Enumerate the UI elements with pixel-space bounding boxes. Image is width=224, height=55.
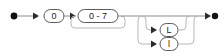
arrow-to-end-icon — [205, 12, 211, 19]
arrow-to-zero-prefix-icon — [33, 12, 39, 19]
node-suffix-lower-l-label: l — [168, 39, 170, 49]
node-suffix-upper-l-label: L — [166, 25, 171, 35]
node-octal-digit-label: 0 - 7 — [89, 11, 107, 21]
node-suffix-upper-l: L — [160, 24, 178, 37]
arrow-to-suffix-lower-l-icon — [151, 41, 157, 48]
node-zero-prefix: 0 — [44, 10, 64, 23]
node-octal-digit: 0 - 7 — [78, 10, 118, 23]
rail-merge-from-suffix-upper-l — [178, 16, 190, 30]
railroad-diagram: 0 0 - 7 L l — [0, 0, 224, 55]
start-marker-dot — [11, 13, 18, 20]
arrow-to-suffix-upper-l-icon — [151, 27, 157, 34]
syntax-diagram-canvas: 0 0 - 7 L l — [0, 0, 224, 55]
node-suffix-lower-l: l — [160, 38, 178, 51]
end-marker-dot — [212, 13, 218, 19]
node-zero-prefix-label: 0 — [51, 11, 56, 21]
